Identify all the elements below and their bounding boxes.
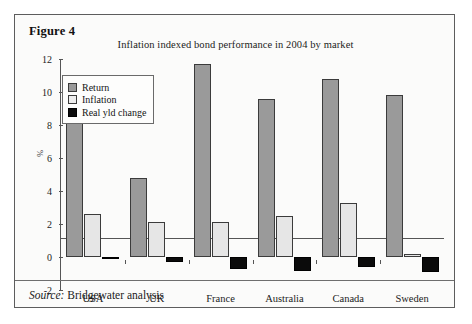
source-text: Bridgewater analysis — [67, 289, 164, 301]
y-tick-label: 8 — [23, 120, 57, 131]
legend-label-return: Return — [82, 82, 109, 93]
bar-chart: Inflation indexed bond performance in 20… — [15, 37, 456, 283]
bar — [404, 254, 421, 257]
y-tick-label: 6 — [23, 153, 57, 164]
bar-group — [386, 59, 439, 290]
chart-legend: Return Inflation Real yld change — [62, 75, 154, 124]
figure-panel: Figure 4 Inflation indexed bond performa… — [14, 14, 455, 308]
y-tick-mark — [59, 158, 63, 159]
legend-label-real-yld-change: Real yld change — [82, 107, 146, 118]
bar — [258, 99, 275, 257]
bar — [322, 79, 339, 257]
y-tick-mark — [59, 125, 63, 126]
source-label: Source: — [29, 289, 64, 301]
bar — [148, 222, 165, 257]
bar — [212, 222, 229, 257]
legend-swatch-return-icon — [68, 83, 77, 92]
legend-item: Inflation — [68, 94, 146, 105]
bar — [386, 95, 403, 257]
bar — [276, 216, 293, 257]
x-axis-category-label: France — [189, 293, 253, 304]
bar — [422, 257, 439, 272]
y-tick-mark — [59, 59, 63, 60]
bar — [294, 257, 311, 271]
source-divider — [15, 280, 454, 281]
y-tick-mark — [59, 224, 63, 225]
x-axis-category-label: Canada — [316, 293, 380, 304]
y-tick-label: 0 — [23, 252, 57, 263]
chart-title: Inflation indexed bond performance in 20… — [15, 39, 456, 50]
source-line: Source: Bridgewater analysis — [29, 289, 164, 301]
x-tick-mark — [380, 260, 381, 264]
legend-item: Real yld change — [68, 107, 146, 118]
bar — [130, 178, 147, 257]
x-tick-mark — [125, 260, 126, 264]
bar — [230, 257, 247, 269]
bar-group — [194, 59, 247, 290]
bar — [102, 257, 119, 259]
y-tick-label: 4 — [23, 186, 57, 197]
bar-group — [258, 59, 311, 290]
legend-label-inflation: Inflation — [82, 94, 116, 105]
y-tick-label: 10 — [23, 87, 57, 98]
y-tick-mark — [59, 191, 63, 192]
y-tick-mark — [59, 257, 63, 258]
y-tick-label: 12 — [23, 54, 57, 65]
legend-item: Return — [68, 82, 146, 93]
x-tick-mark — [253, 260, 254, 264]
x-axis-category-label: Australia — [253, 293, 317, 304]
y-tick-label: 2 — [23, 219, 57, 230]
bar — [84, 214, 101, 257]
x-tick-mark — [316, 260, 317, 264]
bar — [166, 257, 183, 262]
bar — [340, 203, 357, 257]
bar — [194, 64, 211, 257]
bar — [358, 257, 375, 267]
legend-swatch-inflation-icon — [68, 95, 77, 104]
x-axis-category-label: Sweden — [380, 293, 444, 304]
x-tick-mark — [189, 260, 190, 264]
bar-group — [322, 59, 375, 290]
legend-swatch-real-yld-change-icon — [68, 108, 77, 117]
